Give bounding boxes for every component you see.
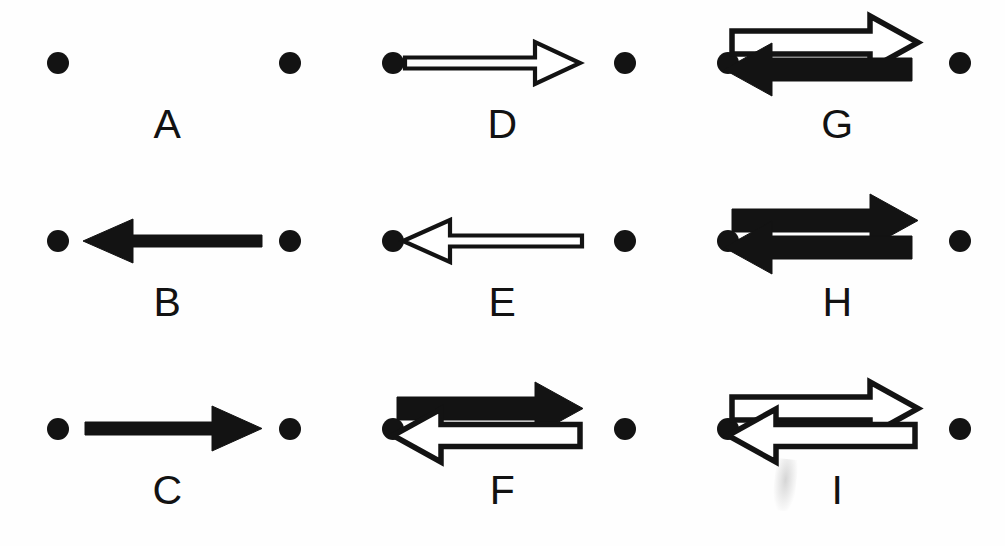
panel-d: D bbox=[335, 0, 670, 182]
panel-b: B bbox=[0, 178, 335, 360]
arrow-diagram-figure: A D bbox=[0, 0, 1005, 546]
panel-d-label: D bbox=[335, 104, 670, 145]
panel-c: C bbox=[0, 366, 335, 546]
panel-h: H bbox=[670, 178, 1005, 360]
panel-g: G bbox=[670, 0, 1005, 182]
panel-e: E bbox=[335, 178, 670, 360]
panel-i-label: I bbox=[670, 470, 1005, 511]
panel-f-label: F bbox=[335, 470, 670, 511]
panel-h-label: H bbox=[670, 282, 1005, 323]
panel-a-label: A bbox=[0, 104, 335, 145]
dot-right bbox=[279, 52, 301, 74]
panel-g-label: G bbox=[670, 104, 1005, 145]
panel-e-label: E bbox=[335, 282, 670, 323]
panel-a: A bbox=[0, 0, 335, 182]
panel-c-label: C bbox=[0, 470, 335, 511]
panel-f: F bbox=[335, 366, 670, 546]
panel-i: I bbox=[670, 366, 1005, 546]
panel-b-label: B bbox=[0, 282, 335, 323]
dot-left bbox=[47, 52, 69, 74]
